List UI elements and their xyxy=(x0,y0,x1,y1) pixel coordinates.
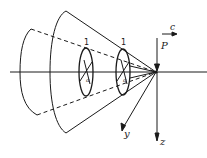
force-p-arrowhead xyxy=(155,64,160,71)
axis-label-y: y xyxy=(123,128,130,139)
axis-label-z: z xyxy=(159,136,166,147)
marker-a-1: a xyxy=(86,76,90,83)
marker-a-2: a xyxy=(123,76,127,83)
apex-point xyxy=(154,70,157,73)
velocity-label-c: c xyxy=(170,22,175,32)
cone-diagram: 1 1 a a P c y z xyxy=(0,0,207,158)
z-axis-arrowhead xyxy=(155,133,159,141)
section-label-2: 1 xyxy=(121,38,126,47)
section-label-1: 1 xyxy=(84,38,89,47)
force-label-p: P xyxy=(160,40,168,51)
y-axis-line xyxy=(123,72,156,128)
